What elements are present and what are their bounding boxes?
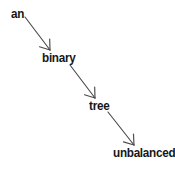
arrowhead-barb-2	[133, 134, 134, 145]
word-node-binary: binary	[42, 51, 75, 64]
arrow-shaft	[70, 65, 95, 98]
word-node-unbalanced: unbalanced	[113, 146, 175, 159]
arrow-layer	[0, 0, 175, 169]
arrow-shaft	[108, 112, 134, 145]
word-chain-diagram: an binary tree unbalanced	[0, 0, 175, 169]
word-node-tree: tree	[89, 99, 109, 112]
word-node-an: an	[11, 7, 24, 20]
arrow-shaft	[25, 17, 50, 50]
